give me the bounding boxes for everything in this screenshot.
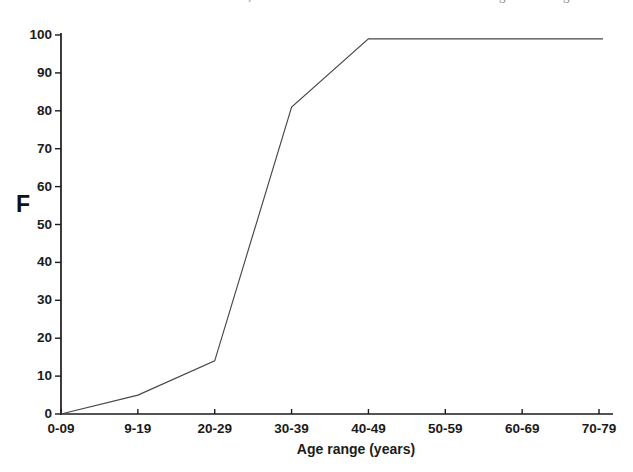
y-tick-label: 90 bbox=[10, 65, 52, 81]
cropped-glyph-char: , bbox=[248, 0, 260, 4]
y-tick-label: 50 bbox=[10, 217, 52, 233]
y-tick-label: 20 bbox=[10, 330, 52, 346]
y-tick-label: 100 bbox=[10, 27, 52, 43]
y-tick-label: 60 bbox=[10, 179, 52, 195]
x-tick-label: 0-09 bbox=[30, 421, 92, 437]
y-axis-title: F bbox=[16, 191, 30, 218]
x-tick-label: 30-39 bbox=[261, 421, 323, 437]
y-tick-label: 10 bbox=[10, 368, 52, 384]
y-tick-label: 40 bbox=[10, 254, 52, 270]
x-tick-label: 9-19 bbox=[107, 421, 169, 437]
data-series-line bbox=[61, 39, 603, 414]
cropped-glyph-fragment: g bbox=[563, 0, 575, 4]
x-tick-label: 50-59 bbox=[414, 421, 476, 437]
x-axis-title: Age range (years) bbox=[256, 441, 456, 457]
cropped-glyph-char: g bbox=[563, 0, 575, 4]
y-tick-label: 0 bbox=[10, 406, 52, 422]
x-tick-label: 40-49 bbox=[337, 421, 399, 437]
cropped-glyph-char: g bbox=[499, 0, 511, 4]
y-tick-label: 30 bbox=[10, 292, 52, 308]
cropped-glyph-fragment: , bbox=[248, 0, 260, 4]
x-tick-label: 20-29 bbox=[184, 421, 246, 437]
y-tick-label: 70 bbox=[10, 141, 52, 157]
cropped-glyph-fragment: g bbox=[499, 0, 511, 4]
plot-canvas bbox=[0, 0, 633, 472]
y-tick-label: 80 bbox=[10, 103, 52, 119]
x-tick-label: 60-69 bbox=[491, 421, 553, 437]
line-chart-figure: F Age range (years) 01020304050607080901… bbox=[0, 0, 633, 472]
x-tick-label: 70-79 bbox=[568, 421, 630, 437]
